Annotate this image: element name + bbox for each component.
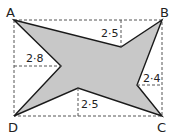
diagram-canvas: A B C D 2·5 2·8 2·4 2·5 [0, 0, 175, 136]
measurement-bottom: 2·5 [81, 98, 99, 111]
vertex-label-b: B [160, 5, 169, 20]
measurement-top: 2·5 [101, 27, 119, 40]
geometry-diagram: A B C D 2·5 2·8 2·4 2·5 [0, 0, 175, 136]
vertex-label-d: D [8, 120, 18, 135]
measurement-left: 2·8 [26, 52, 44, 65]
vertex-label-a: A [6, 5, 15, 20]
measurement-right: 2·4 [143, 72, 161, 85]
vertex-label-c: C [157, 120, 166, 135]
